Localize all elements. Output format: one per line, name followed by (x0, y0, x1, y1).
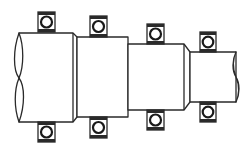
bearing-3-bottom (147, 110, 164, 130)
ball-icon (41, 17, 52, 28)
bearing-2-bottom (90, 117, 107, 138)
ball-icon (203, 37, 214, 48)
bearing-1-bottom (38, 122, 55, 142)
shaft-segment-2 (77, 37, 128, 117)
bearing-3-top (147, 24, 164, 44)
ball-icon (203, 107, 214, 118)
shaft-segment-4 (190, 52, 236, 102)
bearing-4-top (200, 32, 216, 52)
shaft-segment-1 (19, 33, 77, 122)
stepped-shaft-diagram (0, 0, 251, 150)
ball-icon (41, 127, 52, 138)
ball-icon (150, 29, 161, 40)
ball-icon (150, 115, 161, 126)
ball-icon (93, 122, 104, 133)
bearing-1-top (38, 12, 55, 32)
ball-icon (93, 21, 104, 32)
bearing-4-bottom (200, 102, 216, 122)
shaft-segment-3 (128, 44, 190, 110)
bearing-2-top (90, 16, 107, 37)
